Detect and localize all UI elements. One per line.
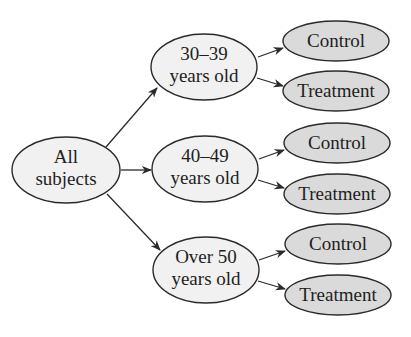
- node-control-40-49: Control: [284, 123, 390, 163]
- arrow-group-3-to-control: [259, 251, 285, 260]
- node-label-line1: Over 50: [175, 246, 237, 267]
- arrow-root-to-group-1: [106, 88, 157, 147]
- node-all-subjects: All subjects: [12, 137, 120, 203]
- node-label-line1: 40–49: [181, 145, 229, 166]
- node-control-30-39: Control: [283, 21, 389, 61]
- node-label-line1: All: [54, 146, 78, 167]
- arrow-group-2-to-control: [259, 150, 284, 159]
- arrow-group-1-to-control: [258, 48, 283, 57]
- node-label-line2: subjects: [35, 168, 96, 189]
- node-control-over-50: Control: [285, 224, 391, 264]
- node-treatment-40-49: Treatment: [284, 174, 390, 214]
- node-label-line2: years old: [170, 167, 240, 188]
- node-label: Treatment: [299, 284, 377, 305]
- node-group-30-39: 30–39 years old: [151, 34, 257, 100]
- stratified-design-diagram: All subjects 30–39 years old 40–49 years…: [0, 0, 411, 337]
- node-label: Control: [307, 30, 365, 51]
- node-label: Treatment: [297, 80, 375, 101]
- node-group-over-50: Over 50 years old: [153, 237, 259, 303]
- node-treatment-30-39: Treatment: [283, 71, 389, 111]
- arrow-root-to-group-3: [107, 194, 160, 250]
- node-label-line2: years old: [171, 268, 241, 289]
- node-treatment-over-50: Treatment: [285, 275, 391, 315]
- arrow-group-1-to-treatment: [257, 78, 283, 86]
- node-label: Control: [308, 132, 366, 153]
- node-group-40-49: 40–49 years old: [152, 136, 258, 202]
- node-label-line1: 30–39: [180, 43, 228, 64]
- node-label-line2: years old: [169, 65, 239, 86]
- arrow-group-3-to-treatment: [258, 281, 285, 289]
- node-label: Treatment: [298, 183, 376, 204]
- node-label: Control: [309, 233, 367, 254]
- arrow-group-2-to-treatment: [258, 180, 284, 188]
